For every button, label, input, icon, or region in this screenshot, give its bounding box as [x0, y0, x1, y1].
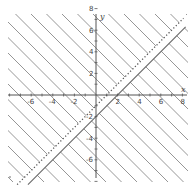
stray-dot [9, 176, 11, 178]
x-axis-label: x [181, 85, 186, 94]
x-tick-label: -2 [70, 98, 77, 106]
y-tick-label: 4 [89, 48, 94, 56]
x-tick-label: -4 [49, 98, 57, 106]
inequality-graph: -6-4-224688642-2-4-6 x y [0, 0, 196, 186]
y-axis-label: y [99, 12, 105, 21]
x-tick-label: 8 [180, 98, 184, 106]
y-tick-label: 6 [89, 27, 94, 35]
y-tick-label: -2 [86, 113, 93, 121]
y-tick-label: -4 [86, 135, 94, 143]
y-tick-label: 8 [89, 5, 93, 13]
axis-ticks: -6-4-224688642-2-4-6 [10, 5, 185, 181]
x-tick-label: 2 [116, 98, 120, 106]
x-tick-label: 4 [137, 98, 142, 106]
x-tick-label: 6 [159, 98, 164, 106]
x-tick-label: -6 [27, 98, 35, 106]
y-tick-label: 2 [89, 70, 93, 78]
y-tick-label: -6 [86, 156, 94, 164]
